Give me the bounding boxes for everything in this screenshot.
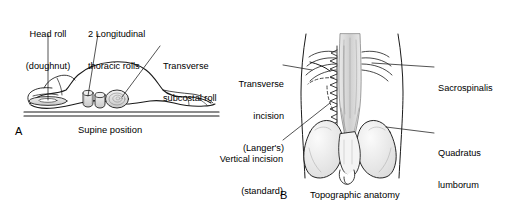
longitudinal-thoracic-rolls (83, 90, 105, 108)
label-vertical-incision: Vertical incision (standard) (205, 133, 283, 214)
label-quadratus-line2: lumborum (438, 180, 508, 191)
label-thoracic-rolls-line2: thoracic rolls (88, 61, 174, 72)
panel-a-letter: A (15, 125, 22, 137)
ribs-right (362, 51, 392, 81)
label-sacrospinalis: Sacrospinalis (438, 62, 510, 115)
label-quadratus-lumborum: Quadratus lumborum (438, 127, 508, 212)
panel-b-illustration (283, 34, 434, 184)
label-sacrospinalis-text: Sacrospinalis (438, 83, 510, 94)
label-vertical-incision-line2: (standard) (205, 186, 283, 197)
panel-b-caption: Topographic anatomy (310, 189, 400, 200)
label-transverse-incision-line1: Transverse (218, 79, 284, 90)
figure-root: Head roll (doughnut) 2 Longitudinal thor… (0, 0, 511, 214)
label-quadratus-line1: Quadratus (438, 148, 508, 159)
label-vertical-incision-line1: Vertical incision (205, 154, 283, 165)
label-thoracic-rolls-line1: 2 Longitudinal (88, 29, 174, 40)
twelfth-rib-dashed (308, 78, 334, 110)
label-head-roll: Head roll (doughnut) (14, 8, 82, 93)
label-head-roll-line1: Head roll (14, 29, 82, 40)
sacrum-and-coccyx (339, 132, 361, 184)
panel-a-caption: Supine position (78, 124, 142, 135)
panel-b-letter: B (280, 189, 287, 201)
label-transverse-incision-line2: incision (218, 111, 284, 122)
label-head-roll-line2: (doughnut) (14, 61, 82, 72)
label-thoracic-rolls: 2 Longitudinal thoracic rolls (88, 8, 174, 93)
